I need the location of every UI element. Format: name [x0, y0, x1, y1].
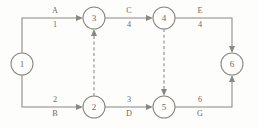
node-2-label: 2 [92, 102, 97, 112]
edge-e-group: E 4 [175, 6, 235, 53]
edge-g-group: 6 G [175, 75, 235, 118]
node-3-label: 3 [92, 13, 97, 23]
node-5-label: 5 [162, 102, 167, 112]
node-6[interactable]: 6 [221, 53, 243, 75]
node-2[interactable]: 2 [83, 96, 105, 118]
edge-g-line [175, 80, 232, 107]
edge-dummy-4-5-group [161, 29, 167, 96]
edge-b-activity-label: B [52, 109, 58, 118]
edge-a-arrowhead [76, 15, 83, 21]
edge-c-activity-label: C [126, 6, 132, 15]
node-5[interactable]: 5 [153, 96, 175, 118]
node-4-label: 4 [162, 13, 167, 23]
edge-e-line [175, 18, 232, 48]
edge-b-arrowhead [76, 104, 83, 110]
node-1[interactable]: 1 [11, 53, 33, 75]
network-diagram-canvas: A 1 C 4 E 4 2 B 3 D [0, 0, 259, 128]
edge-c-group: C 4 [105, 6, 153, 29]
edge-dummy-2-3-arrowhead [91, 29, 97, 36]
edge-c-arrowhead [146, 15, 153, 21]
edge-e-arrowhead [229, 46, 235, 53]
edge-d-activity-label: D [126, 109, 132, 118]
edge-a-line [22, 18, 78, 53]
node-3[interactable]: 3 [83, 7, 105, 29]
edge-e-duration-label: 4 [198, 20, 202, 29]
edge-b-duration-label: 2 [53, 95, 57, 104]
edge-b-line [22, 75, 78, 107]
network-diagram-page: A 1 C 4 E 4 2 B 3 D [0, 0, 259, 128]
edge-b-group: 2 B [22, 75, 83, 118]
edge-d-group: 3 D [105, 95, 153, 118]
edge-g-duration-label: 6 [198, 95, 202, 104]
edge-g-activity-label: G [197, 109, 203, 118]
edge-a-activity-label: A [52, 6, 58, 15]
edge-dummy-4-5-arrowhead [161, 89, 167, 96]
edge-a-duration-label: 1 [53, 20, 57, 29]
edge-d-duration-label: 3 [127, 95, 131, 104]
edge-c-duration-label: 4 [127, 20, 131, 29]
edge-dummy-2-3-group [91, 29, 97, 96]
edge-a-group: A 1 [22, 6, 83, 53]
edge-g-arrowhead [229, 75, 235, 82]
edge-e-activity-label: E [197, 6, 202, 15]
edge-d-arrowhead [146, 104, 153, 110]
node-1-label: 1 [20, 59, 25, 69]
node-4[interactable]: 4 [153, 7, 175, 29]
node-6-label: 6 [230, 59, 235, 69]
